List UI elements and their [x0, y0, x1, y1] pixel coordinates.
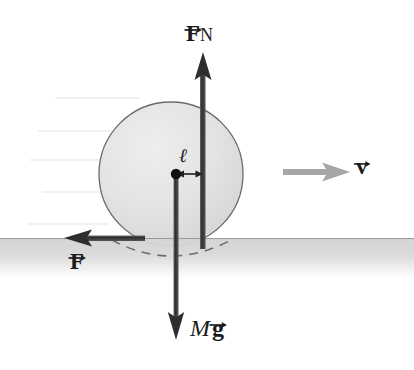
vector-accent-v: v: [356, 155, 368, 178]
label-offset-length: ℓ: [179, 146, 187, 165]
vector-arrow-glyph: [353, 148, 370, 171]
center-of-mass-dot: [171, 169, 181, 179]
label-friction-force: F: [70, 250, 84, 273]
arrow-overbar-icon: [68, 253, 86, 261]
vector-arrow-glyph: [209, 308, 227, 332]
label-weight: M g: [190, 316, 224, 340]
vector-accent-F: F: [70, 250, 84, 273]
vector-arrow-glyph: [184, 14, 202, 37]
arrow-overbar-icon: [184, 25, 202, 33]
arrow-overbar-icon: [209, 320, 227, 328]
label-velocity: v: [356, 155, 368, 178]
arrow-overbar-icon: [353, 159, 370, 167]
vector-arrow-glyph: [68, 242, 86, 265]
vector-accent-F-N: F: [186, 22, 200, 45]
velocity-vector: [283, 163, 350, 182]
physics-diagram-canvas: F N M g F: [0, 0, 414, 370]
label-normal-force: F N: [186, 22, 213, 45]
label-mass-symbol: M: [190, 315, 210, 341]
vector-accent-g: g: [212, 316, 224, 340]
ground-overlap-mask: [0, 238, 414, 278]
